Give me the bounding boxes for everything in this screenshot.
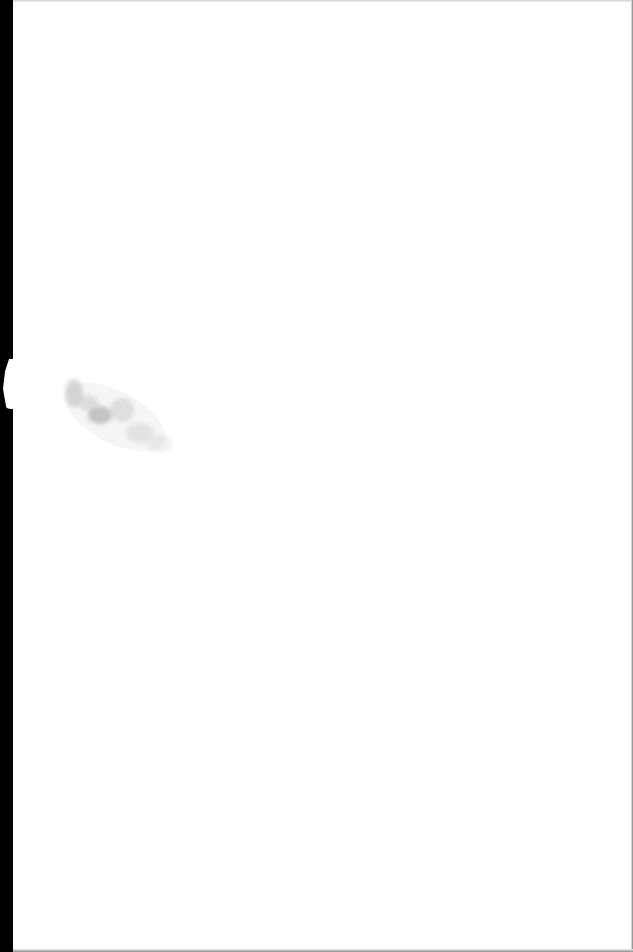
scanned-page bbox=[0, 0, 633, 952]
page-body bbox=[13, 2, 631, 949]
scanner-left-edge bbox=[0, 0, 13, 952]
ink-smudge bbox=[60, 375, 185, 465]
